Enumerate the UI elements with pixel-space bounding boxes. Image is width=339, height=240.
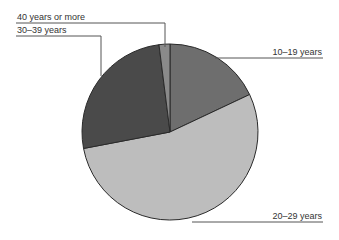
pie-slices xyxy=(82,44,258,220)
label-30-39: 30–39 years xyxy=(17,25,67,35)
label-10-19: 10–19 years xyxy=(272,47,322,57)
pie-slice-30-39-years xyxy=(82,45,170,149)
pie-chart: 40 years or more 30–39 years 10–19 years… xyxy=(0,0,339,240)
leader-line-30-39 xyxy=(16,36,101,76)
label-20-29: 20–29 years xyxy=(272,211,322,221)
label-40-plus: 40 years or more xyxy=(17,12,85,22)
